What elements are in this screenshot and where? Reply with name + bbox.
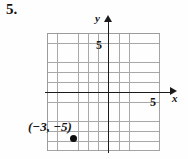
problem-number: 5. <box>6 2 17 17</box>
y-axis-line <box>108 19 109 153</box>
y-axis-label: y <box>95 13 100 24</box>
y-axis-arrow-icon <box>104 15 112 22</box>
x-axis-tick-label-5: 5 <box>150 96 156 108</box>
y-axis-tick-label-5: 5 <box>96 39 102 51</box>
x-axis-line <box>45 92 172 93</box>
point-coordinate-label: (−3, −5) <box>28 120 72 133</box>
x-axis-label: x <box>172 93 178 104</box>
graph-exercise-figure: 5. x y 5 5 (−3, −5) <box>0 0 188 159</box>
